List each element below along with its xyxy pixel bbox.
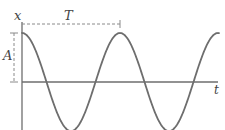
horizontal-axis-label: t — [214, 84, 219, 96]
amplitude-label: A — [3, 49, 12, 62]
period-label: T — [64, 9, 73, 22]
oscillation-diagram: x T A t — [0, 0, 225, 130]
vertical-axis-label: x — [14, 9, 21, 22]
sinusoid-plot — [0, 0, 225, 130]
